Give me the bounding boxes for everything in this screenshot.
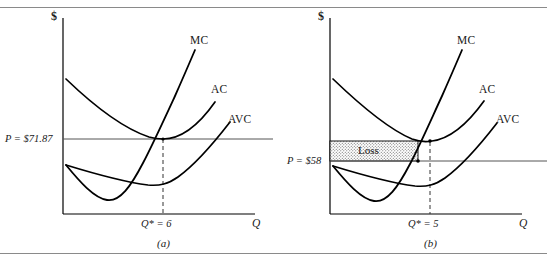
- figure-container: $ Q MC AC AVC P = $71.87 Q* = 6 (a): [0, 0, 547, 261]
- panel-b-letter: (b): [424, 238, 437, 249]
- panel-a-letter: (a): [157, 238, 170, 249]
- panel-a-ac-label: AC: [211, 84, 227, 96]
- panel-a: $ Q MC AC AVC P = $71.87 Q* = 6 (a): [0, 0, 273, 261]
- panel-a-avc-label: AVC: [228, 114, 251, 126]
- panel-a-x-axis-label: Q: [252, 218, 260, 230]
- panel-b-avc-label: AVC: [496, 114, 519, 126]
- panel-a-price-label: P = $71.87: [5, 134, 52, 145]
- panel-a-ac-curve: [66, 79, 215, 139]
- panel-b-mc-curve: [333, 50, 462, 201]
- panel-b-loss-label: Loss: [358, 145, 379, 156]
- panel-b-mc-label: MC: [457, 35, 475, 47]
- panel-b-ac-mc-intersection-point: [428, 139, 432, 143]
- panel-b-x-axis-label: Q: [519, 218, 527, 230]
- panel-b-ac-curve: [333, 79, 484, 142]
- panel-a-quantity-label: Q* = 6: [141, 219, 171, 230]
- panel-a-mc-label: MC: [190, 35, 208, 47]
- panel-b-price-label: P = $58: [287, 156, 321, 167]
- panel-a-y-axis-label: $: [51, 10, 57, 22]
- panel-b-quantity-label: Q* = 5: [408, 219, 438, 230]
- panel-b-price-mc-intersection-point: [416, 159, 420, 163]
- panel-b: $ Q MC AC AVC P = $58 Loss Q* = 5 (b): [274, 0, 547, 261]
- panel-a-svg: [0, 0, 273, 261]
- panel-a-equilibrium-point: [161, 137, 164, 140]
- panel-b-y-axis-label: $: [318, 10, 324, 22]
- panel-b-ac-label: AC: [479, 84, 495, 96]
- panel-a-plot: [0, 0, 273, 261]
